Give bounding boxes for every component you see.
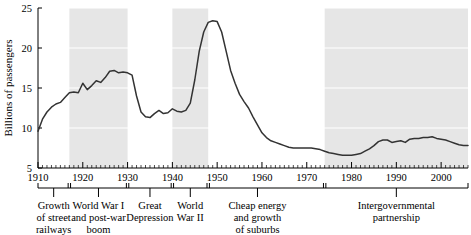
x-tick-label: 1910 bbox=[28, 172, 49, 183]
x-tick-label: 1940 bbox=[162, 172, 183, 183]
period-bracket bbox=[38, 183, 468, 197]
period-label-line: partnership bbox=[373, 212, 420, 223]
period-label-line: of suburbs bbox=[235, 224, 279, 235]
period-label-line: World bbox=[177, 200, 204, 211]
y-axis-ticks bbox=[38, 8, 42, 168]
transit-ridership-figure: 510152025 191019201930194019501960197019… bbox=[0, 0, 471, 235]
x-tick-label: 1960 bbox=[251, 172, 272, 183]
period-label-line: War II bbox=[177, 212, 204, 223]
y-tick-label: 10 bbox=[22, 123, 33, 134]
x-tick-label: 1930 bbox=[117, 172, 138, 183]
chart-canvas: 510152025 191019201930194019501960197019… bbox=[0, 0, 471, 235]
y-tick-label: 15 bbox=[22, 83, 33, 94]
x-tick-label: 2000 bbox=[431, 172, 452, 183]
period-label-line: Intergovernmental bbox=[358, 200, 435, 211]
y-axis-title: Billions of passengers bbox=[2, 39, 14, 136]
period-label-line: World War I bbox=[73, 200, 125, 211]
period-label-line: of street bbox=[37, 212, 71, 223]
x-tick-label: 1950 bbox=[207, 172, 228, 183]
x-tick-label: 1920 bbox=[72, 172, 93, 183]
x-axis-tick-labels: 1910192019301940195019601970198019902000 bbox=[28, 172, 452, 183]
period-label-line: Depression bbox=[126, 212, 174, 223]
y-tick-label: 20 bbox=[22, 43, 33, 54]
x-tick-label: 1980 bbox=[341, 172, 362, 183]
period-label-line: railways bbox=[36, 224, 72, 235]
period-label-line: Cheap energy bbox=[229, 200, 288, 211]
period-annotation-labels: Growthof streetrailwaysWorld War Iand po… bbox=[36, 200, 435, 235]
x-tick-label: 1990 bbox=[386, 172, 407, 183]
period-label-line: Growth bbox=[38, 200, 71, 211]
period-label-line: Great bbox=[138, 200, 161, 211]
period-label-line: and growth bbox=[234, 212, 282, 223]
period-label-line: and post-war bbox=[71, 212, 126, 223]
y-tick-label: 25 bbox=[22, 3, 33, 14]
period-label-line: boom bbox=[87, 224, 111, 235]
x-tick-label: 1970 bbox=[296, 172, 317, 183]
y-axis-tick-labels: 510152025 bbox=[22, 3, 33, 174]
y-axis-title-text: Billions of passengers bbox=[2, 39, 14, 136]
